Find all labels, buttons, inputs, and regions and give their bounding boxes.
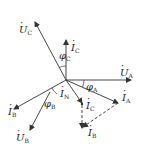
label-i-b-shift-sub: B <box>92 132 96 139</box>
label-i-n-sub: N <box>64 93 69 100</box>
label-phi-a-main: φ <box>86 81 93 92</box>
label-u-b-main: U <box>16 132 24 143</box>
label-phi-c-main: φ <box>59 50 66 61</box>
label-u-c-main: U <box>19 24 27 35</box>
label-i-b-shift: IB <box>88 128 96 139</box>
label-i-c-shift-main: I <box>86 100 90 111</box>
phasor-diagram: UC IC φC UA φA IA IN IC φB IB UB IB <box>0 0 148 148</box>
label-i-c-shift-sub: C <box>90 105 95 112</box>
label-i-b-sub: B <box>12 111 16 118</box>
label-u-c: UC <box>19 25 32 36</box>
label-phi-c-sub: C <box>66 55 71 62</box>
phasor-i-b <box>14 80 66 109</box>
label-i-a: IA <box>122 93 130 104</box>
label-i-c-shift: IC <box>86 101 95 112</box>
angle-arc-b <box>52 88 57 94</box>
label-i-c-main: I <box>71 42 75 53</box>
label-u-a-sub: A <box>128 72 132 79</box>
label-i-b-main: I <box>8 106 12 117</box>
label-i-a-main: I <box>122 92 126 103</box>
label-i-b-shift-main: I <box>88 127 92 138</box>
label-i-c-sub: C <box>75 47 80 54</box>
label-u-b: UB <box>16 133 29 144</box>
label-i-a-sub: A <box>126 97 130 104</box>
label-u-a: UA <box>120 68 133 79</box>
label-phi-b-main: φ <box>44 98 51 109</box>
label-phi-b: φB <box>44 99 55 110</box>
i-n-tip-dot <box>81 103 83 105</box>
label-phi-a-sub: A <box>93 86 97 93</box>
label-i-b: IB <box>8 107 16 118</box>
angle-arc-a <box>83 80 85 87</box>
label-phi-b-sub: B <box>51 103 55 110</box>
label-i-n-main: I <box>60 88 64 99</box>
angle-arc-c <box>59 66 66 68</box>
label-i-c: IC <box>71 43 80 54</box>
label-u-a-main: U <box>120 67 128 78</box>
label-phi-a: φA <box>86 82 97 93</box>
label-u-c-sub: C <box>27 29 32 36</box>
label-phi-c: φC <box>59 51 71 62</box>
label-u-b-sub: B <box>24 137 28 144</box>
label-i-n: IN <box>60 89 69 100</box>
